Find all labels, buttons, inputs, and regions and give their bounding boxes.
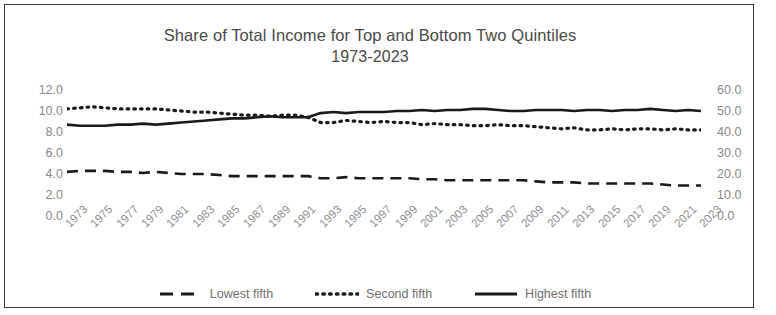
y-axis-right-tick: 20.0 [717, 168, 763, 181]
legend-item-lowest-fifth[interactable]: Lowest fifth [159, 287, 273, 301]
y-axis-right-tick: 60.0 [717, 84, 763, 97]
plot-area [67, 90, 701, 216]
y-axis-left-tick: 10.0 [17, 105, 63, 118]
y-axis-right-tick: 50.0 [717, 105, 763, 118]
y-axis-left-tick: 2.0 [17, 189, 63, 202]
y-axis-right-tick: 30.0 [717, 147, 763, 160]
y-axis-left-tick: 8.0 [17, 126, 63, 139]
chart-screenshot: Share of Total Income for Top and Bottom… [0, 0, 776, 315]
x-axis: 1973197519771979198119831985198719891991… [67, 221, 701, 271]
chart-subtitle: 1973-2023 [5, 46, 735, 67]
legend-label: Second fifth [366, 287, 432, 301]
chart-legend: Lowest fifthSecond fifthHighest fifth [5, 287, 745, 301]
y-axis-right-tick: 10.0 [717, 189, 763, 202]
y-axis-left-tick: 4.0 [17, 168, 63, 181]
legend-item-highest-fifth[interactable]: Highest fifth [474, 287, 591, 301]
y-axis-left-tick: 6.0 [17, 147, 63, 160]
legend-item-second-fifth[interactable]: Second fifth [315, 287, 432, 301]
y-axis-left-tick: 12.0 [17, 84, 63, 97]
legend-swatch-dotted-icon [315, 289, 359, 299]
legend-label: Highest fifth [525, 287, 591, 301]
series-line-highest-fifth [67, 109, 701, 126]
y-axis-right-tick: 0.0 [717, 210, 763, 223]
page-title: Share of Total Income for Top and Bottom… [5, 25, 735, 46]
y-axis-right-tick: 40.0 [717, 126, 763, 139]
legend-label: Lowest fifth [210, 287, 273, 301]
y-axis-left-tick: 0.0 [17, 210, 63, 223]
chart-frame: Share of Total Income for Top and Bottom… [4, 4, 754, 308]
chart-title-block: Share of Total Income for Top and Bottom… [5, 25, 735, 67]
legend-swatch-dashed-icon [159, 289, 203, 299]
series-line-lowest-fifth [67, 171, 701, 186]
series-canvas [67, 90, 701, 216]
legend-swatch-solid-icon [474, 289, 518, 299]
